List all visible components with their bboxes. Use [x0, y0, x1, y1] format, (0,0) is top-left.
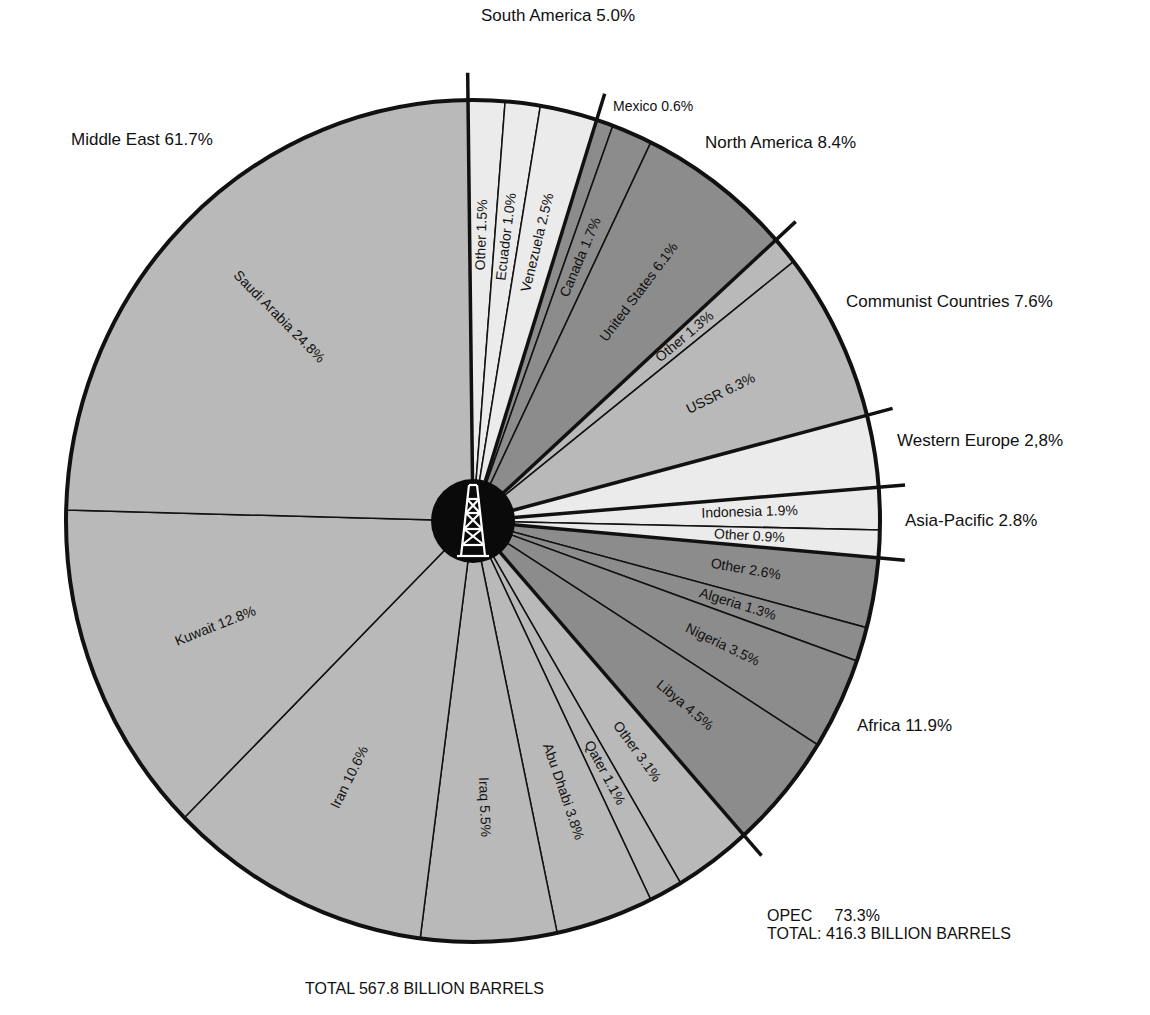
segment-label-mexico: Mexico 0.6%: [613, 98, 693, 114]
region-label-middle-east: Middle East 61.7%: [71, 130, 213, 150]
region-label-communist: Communist Countries 7.6%: [846, 292, 1053, 312]
opec-line-1: OPEC 73.3%: [767, 907, 880, 925]
oil-derrick-icon: [431, 479, 515, 563]
region-label-africa: Africa 11.9%: [857, 716, 952, 736]
region-label-south-america: South America 5.0%: [481, 6, 635, 26]
total-label: TOTAL 567.8 BILLION BARRELS: [305, 980, 544, 998]
segment-label: Other 1.5%: [472, 199, 490, 270]
region-label-north-america: North America 8.4%: [705, 133, 856, 153]
region-label-western-europe: Western Europe 2,8%: [897, 431, 1063, 451]
pie-chart: Other 1.5%Ecuador 1.0%Venezuela 2.5%Cana…: [0, 0, 1150, 1015]
region-label-asia-pacific: Asia-Pacific 2.8%: [905, 511, 1037, 531]
segment-label: Indonesia 1.9%: [701, 502, 798, 521]
opec-line-2: TOTAL: 416.3 BILLION BARRELS: [767, 925, 1011, 943]
segment-label: Iraq 5.5%: [476, 777, 494, 838]
